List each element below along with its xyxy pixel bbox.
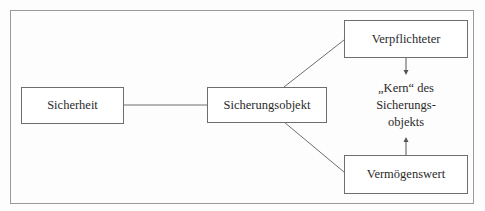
node-label: Sicherungsobjekt: [224, 98, 311, 113]
node-sicherheit: Sicherheit: [21, 87, 124, 124]
node-sicherungsobjekt: Sicherungsobjekt: [207, 87, 327, 123]
node-label: Vermögenswert: [367, 167, 445, 182]
core-line-3: objekts: [370, 114, 442, 131]
node-vermoegenswert: Vermögenswert: [344, 155, 468, 194]
core-label: „Kern“ des Sicherungs- objekts: [370, 80, 442, 131]
core-line-1: „Kern“ des: [370, 80, 442, 97]
node-label: Sicherheit: [47, 98, 98, 113]
core-line-2: Sicherungs-: [370, 97, 442, 114]
node-label: Verpflichteter: [372, 32, 441, 47]
node-verpflichteter: Verpflichteter: [344, 20, 468, 58]
